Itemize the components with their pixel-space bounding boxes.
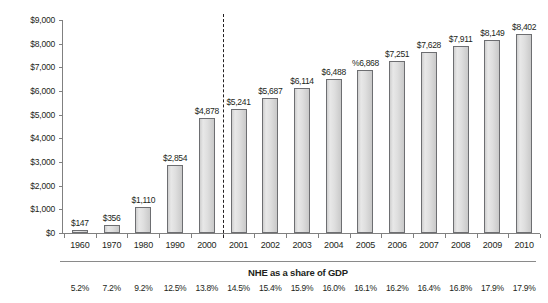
- y-axis-line: [62, 20, 63, 234]
- x-axis-tick-label: 2006: [388, 240, 407, 250]
- bar-2004: [326, 79, 342, 233]
- y-axis-tick-mark: [59, 91, 63, 92]
- y-axis-tick-label: $3,000: [0, 157, 55, 167]
- x-axis-tick-mark: [254, 234, 255, 238]
- gdp-share-value: 15.9%: [291, 283, 314, 293]
- y-axis-tick-mark: [59, 20, 63, 21]
- gdp-share-value: 16.2%: [386, 283, 409, 293]
- y-axis-tick-mark: [59, 44, 63, 45]
- bar-1970: [104, 225, 120, 233]
- x-axis-tick-label: 2004: [324, 240, 343, 250]
- x-axis-line: [62, 233, 540, 234]
- x-axis-tick-label: 2005: [356, 240, 375, 250]
- gdp-share-value: 7.2%: [103, 283, 121, 293]
- x-axis-tick-label: 2002: [261, 240, 280, 250]
- x-axis-tick-label: 2001: [229, 240, 248, 250]
- x-axis-tick-label: 2009: [483, 240, 502, 250]
- x-axis-tick-mark: [445, 234, 446, 238]
- x-axis-tick-mark: [64, 234, 65, 238]
- y-axis-tick-label: $9,000: [0, 15, 55, 25]
- gdp-share-value: 16.0%: [322, 283, 345, 293]
- x-axis-tick-mark: [159, 234, 160, 238]
- y-axis-tick-label: $6,000: [0, 86, 55, 96]
- bar-2009: [484, 40, 500, 233]
- bar-1980: [135, 207, 151, 233]
- x-axis-tick-mark: [350, 234, 351, 238]
- y-axis-tick-mark: [59, 67, 63, 68]
- bar-value-label: $5,241: [226, 97, 250, 107]
- x-axis-tick-mark: [508, 234, 509, 238]
- gdp-share-value: 5.2%: [71, 283, 89, 293]
- footer-separator-rule: [60, 261, 536, 262]
- y-axis-tick-mark: [59, 233, 63, 234]
- bar-value-label: $7,911: [449, 34, 473, 44]
- x-axis-tick-label: 1960: [70, 240, 89, 250]
- gdp-share-value: 16.8%: [449, 283, 472, 293]
- bar-value-label: $6,114: [290, 76, 314, 86]
- y-axis-tick-label: $1,000: [0, 204, 55, 214]
- bar-2006: [389, 61, 405, 233]
- gdp-share-value: 13.8%: [195, 283, 218, 293]
- x-axis-tick-mark: [477, 234, 478, 238]
- x-axis-tick-mark: [127, 234, 128, 238]
- bar-value-label: $5,687: [258, 86, 282, 96]
- x-axis-tick-label: 2003: [292, 240, 311, 250]
- y-axis-tick-label: $4,000: [0, 133, 55, 143]
- y-axis-tick-mark: [59, 162, 63, 163]
- bar-2007: [421, 52, 437, 233]
- plot-area: $0$1,000$2,000$3,000$4,000$5,000$6,000$7…: [0, 0, 548, 250]
- gdp-table-title: NHE as a share of GDP: [248, 267, 348, 278]
- gdp-share-value: 16.4%: [418, 283, 441, 293]
- x-axis-tick-mark: [286, 234, 287, 238]
- bar-value-label: $7,251: [385, 49, 409, 59]
- bar-2000: [199, 118, 215, 233]
- x-axis-tick-label: 2000: [197, 240, 216, 250]
- x-axis-tick-mark: [191, 234, 192, 238]
- bar-1960: [72, 230, 88, 233]
- nhe-bar-chart: $0$1,000$2,000$3,000$4,000$5,000$6,000$7…: [0, 0, 548, 303]
- bar-value-label: $4,878: [195, 106, 219, 116]
- bar-value-label: %6,868: [352, 58, 379, 68]
- gdp-share-value: 9.2%: [134, 283, 152, 293]
- bar-2002: [262, 98, 278, 233]
- bar-value-label: $356: [103, 213, 121, 223]
- gdp-share-value: 17.9%: [513, 283, 536, 293]
- projection-divider-line: [223, 14, 224, 238]
- y-axis-tick-label: $2,000: [0, 181, 55, 191]
- bar-2003: [294, 88, 310, 233]
- y-axis-tick-mark: [59, 115, 63, 116]
- gdp-share-value: 17.9%: [481, 283, 504, 293]
- bar-2001: [231, 109, 247, 233]
- y-axis-tick-label: $5,000: [0, 110, 55, 120]
- gdp-share-value: 15.4%: [259, 283, 282, 293]
- bar-2008: [453, 46, 469, 233]
- x-axis-tick-mark: [413, 234, 414, 238]
- bar-1990: [167, 165, 183, 233]
- y-axis-tick-mark: [59, 186, 63, 187]
- gdp-share-value: 12.5%: [164, 283, 187, 293]
- y-axis-tick-label: $8,000: [0, 39, 55, 49]
- x-axis-tick-label: 1970: [102, 240, 121, 250]
- x-axis-tick-label: 1980: [134, 240, 153, 250]
- bar-2005: [357, 70, 373, 233]
- y-axis-tick-mark: [59, 209, 63, 210]
- gdp-share-value: 16.1%: [354, 283, 377, 293]
- bar-value-label: $2,854: [163, 153, 187, 163]
- y-axis-tick-label: $7,000: [0, 62, 55, 72]
- y-axis-tick-label: $0: [0, 228, 55, 238]
- x-axis-tick-mark: [318, 234, 319, 238]
- x-axis-tick-mark: [540, 234, 541, 238]
- bar-value-label: $8,402: [512, 22, 536, 32]
- y-axis-tick-mark: [59, 138, 63, 139]
- bar-value-label: $7,628: [417, 40, 441, 50]
- x-axis-tick-mark: [96, 234, 97, 238]
- bar-value-label: $147: [71, 218, 89, 228]
- x-axis-tick-label: 2007: [419, 240, 438, 250]
- bar-value-label: $8,149: [480, 28, 504, 38]
- bar-value-label: $1,110: [132, 195, 156, 205]
- x-axis-tick-label: 2010: [515, 240, 534, 250]
- x-axis-tick-mark: [381, 234, 382, 238]
- gdp-share-value: 14.5%: [227, 283, 250, 293]
- bar-2010: [516, 34, 532, 233]
- x-axis-tick-label: 2008: [451, 240, 470, 250]
